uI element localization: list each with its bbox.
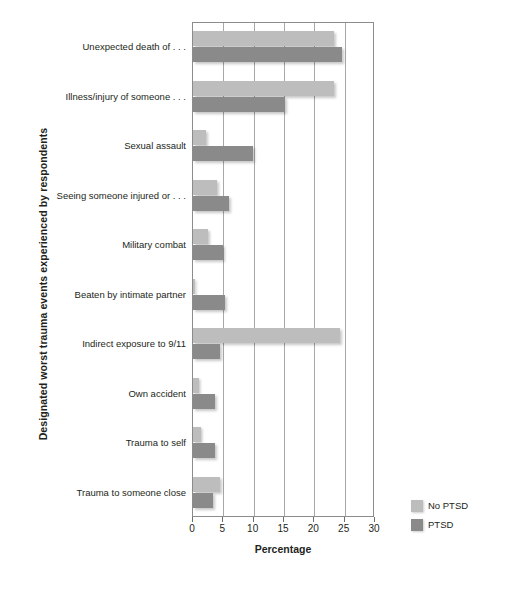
chart-legend: No PTSDPTSD	[411, 497, 499, 535]
bar-ptsd	[193, 97, 285, 112]
legend-item[interactable]: No PTSD	[411, 497, 499, 514]
bars	[193, 225, 493, 265]
bar-chart-figure: Designated worst trauma events experienc…	[0, 0, 506, 590]
category-label: Own accident	[0, 388, 186, 399]
x-tick-label: 0	[177, 523, 207, 534]
category-label: Illness/injury of someone . . .	[0, 91, 186, 102]
x-axis-title: Percentage	[192, 543, 374, 555]
bar-no-ptsd	[193, 180, 217, 195]
bar-group: Unexpected death of . . .	[0, 22, 506, 72]
legend-swatch	[411, 500, 423, 512]
category-label: Seeing someone injured or . . .	[0, 190, 186, 201]
bar-no-ptsd	[193, 427, 201, 442]
category-label: Sexual assault	[0, 140, 186, 151]
x-tick-label: 5	[207, 523, 237, 534]
bar-ptsd	[193, 394, 215, 409]
category-label: Unexpected death of . . .	[0, 41, 186, 52]
x-tick-label: 10	[238, 523, 268, 534]
bar-ptsd	[193, 146, 253, 161]
bar-group: Seeing someone injured or . . .	[0, 171, 506, 221]
x-tick-mark	[374, 517, 375, 522]
bars	[193, 275, 493, 315]
bar-no-ptsd	[193, 229, 208, 244]
category-label: Trauma to someone close	[0, 487, 186, 498]
x-tick-mark	[192, 517, 193, 522]
bar-no-ptsd	[193, 130, 206, 145]
category-label: Military combat	[0, 239, 186, 250]
bar-ptsd	[193, 493, 213, 508]
bar-rows-container: Unexpected death of . . .Illness/injury …	[0, 22, 506, 517]
category-label: Trauma to self	[0, 437, 186, 448]
x-tick-label: 20	[298, 523, 328, 534]
bar-ptsd	[193, 196, 229, 211]
bar-group: Beaten by intimate partner	[0, 270, 506, 320]
legend-label: PTSD	[428, 519, 453, 530]
bar-ptsd	[193, 344, 220, 359]
bar-ptsd	[193, 443, 215, 458]
bar-ptsd	[193, 245, 223, 260]
x-tick-mark	[283, 517, 284, 522]
legend-swatch	[411, 519, 423, 531]
category-label: Indirect exposure to 9/11	[0, 338, 186, 349]
bars	[193, 324, 493, 364]
bar-ptsd	[193, 47, 342, 62]
bars	[193, 77, 493, 117]
bar-group: Sexual assault	[0, 121, 506, 171]
bars	[193, 126, 493, 166]
x-tick-label: 15	[268, 523, 298, 534]
bar-group: Illness/injury of someone . . .	[0, 72, 506, 122]
x-tick-label: 30	[359, 523, 389, 534]
bar-no-ptsd	[193, 81, 334, 96]
bars	[193, 374, 493, 414]
bar-no-ptsd	[193, 328, 340, 343]
bar-no-ptsd	[193, 378, 199, 393]
bar-group: Trauma to self	[0, 418, 506, 468]
x-tick-mark	[313, 517, 314, 522]
bar-no-ptsd	[193, 31, 334, 46]
bars	[193, 423, 493, 463]
bar-group: Indirect exposure to 9/11	[0, 319, 506, 369]
bars	[193, 176, 493, 216]
bar-ptsd	[193, 295, 225, 310]
legend-item[interactable]: PTSD	[411, 516, 499, 533]
x-tick-mark	[222, 517, 223, 522]
bars	[193, 27, 493, 67]
x-tick-label: 25	[329, 523, 359, 534]
bar-no-ptsd	[193, 477, 220, 492]
bar-no-ptsd	[193, 279, 195, 294]
category-label: Beaten by intimate partner	[0, 289, 186, 300]
bar-group: Own accident	[0, 369, 506, 419]
bar-group: Military combat	[0, 220, 506, 270]
x-tick-mark	[344, 517, 345, 522]
legend-label: No PTSD	[428, 500, 468, 511]
x-tick-mark	[253, 517, 254, 522]
